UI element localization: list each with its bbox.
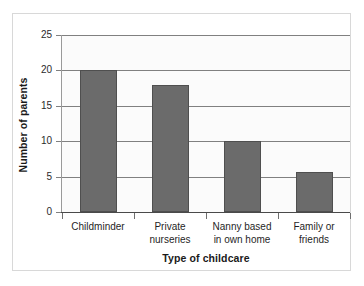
x-tick-2	[206, 213, 207, 219]
x-tick-label-line: friends	[278, 234, 350, 247]
x-tick-label-line: in own home	[206, 234, 278, 247]
x-tick-4	[350, 213, 351, 219]
x-tick-label-3: Family orfriends	[278, 221, 350, 246]
x-tick-label-line: Childminder	[62, 221, 134, 234]
bar-2	[224, 141, 261, 212]
gridline-25	[62, 35, 350, 36]
x-tick-label-2: Nanny basedin own home	[206, 221, 278, 246]
plot-area	[62, 35, 350, 212]
x-tick-label-0: Childminder	[62, 221, 134, 234]
x-tick-1	[134, 213, 135, 219]
y-tick-label-10: 10	[18, 136, 52, 146]
y-tick-label-15: 15	[18, 101, 52, 111]
x-tick-0	[62, 213, 63, 219]
x-tick-label-line: nurseries	[134, 234, 206, 247]
bar-0	[80, 70, 117, 212]
y-tick-15	[56, 106, 61, 107]
x-tick-3	[278, 213, 279, 219]
bar-3	[296, 172, 333, 212]
x-tick-label-line: Nanny based	[206, 221, 278, 234]
bar-1	[152, 85, 189, 212]
y-tick-20	[56, 70, 61, 71]
y-tick-25	[56, 35, 61, 36]
y-tick-label-5: 5	[18, 172, 52, 182]
y-tick-label-20: 20	[18, 65, 52, 75]
x-tick-label-line: Private	[134, 221, 206, 234]
y-tick-10	[56, 141, 61, 142]
chart-figure: Number of parents 0510152025 Childminder…	[0, 0, 364, 286]
x-axis-title: Type of childcare	[62, 252, 350, 264]
x-tick-label-1: Privatenurseries	[134, 221, 206, 246]
x-tick-label-line: Family or	[278, 221, 350, 234]
y-tick-5	[56, 177, 61, 178]
y-tick-label-25: 25	[18, 30, 52, 40]
y-tick-label-0: 0	[18, 207, 52, 217]
